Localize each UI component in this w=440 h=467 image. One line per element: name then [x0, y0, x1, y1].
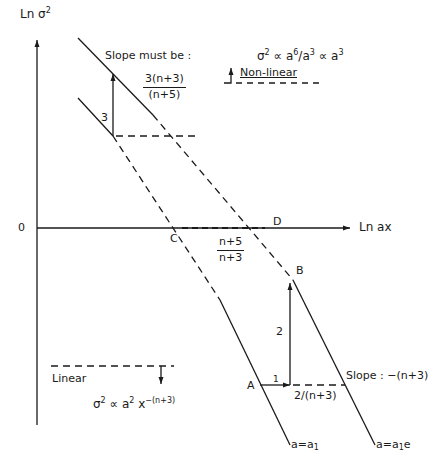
linear-label: Linear: [52, 373, 86, 384]
nonlinear-formula: σ2 ∝ a6/a3 ∝ a3: [257, 50, 344, 62]
point-a-label: A: [247, 380, 255, 391]
right-line-label: a=a1e: [376, 439, 411, 450]
rise-2-label: 2: [276, 326, 283, 337]
x-axis-label: Ln ax: [359, 221, 392, 233]
left-line-label: a=a1: [291, 439, 319, 450]
linear-formula: σ2 ∝ a2 x−(n+3): [93, 398, 175, 410]
non-linear-label: Non-linear: [240, 67, 297, 78]
y-axis-label: Ln σ2: [20, 8, 51, 20]
point-c-label: C: [170, 233, 178, 244]
left-line-solid: [220, 300, 290, 445]
lower-line-dashed: [113, 136, 220, 300]
slope-must-be-label: Slope must be :: [105, 50, 191, 61]
nonlinear-arrow: [224, 68, 231, 83]
run-label: 2/(n+3): [294, 390, 336, 401]
point-d-label: D: [273, 216, 281, 227]
run-1-label: 1: [273, 375, 279, 384]
point-b-label: B: [296, 265, 304, 276]
origin-label: 0: [18, 222, 25, 233]
rise-3-label: 3: [101, 112, 108, 123]
slope-must-be-fraction: 3(n+3) (n+5): [143, 73, 186, 101]
slope-right-label: Slope : −(n+3): [346, 370, 428, 381]
cd-fraction: n+5 n+3: [217, 236, 244, 264]
right-line-solid: [293, 280, 375, 445]
